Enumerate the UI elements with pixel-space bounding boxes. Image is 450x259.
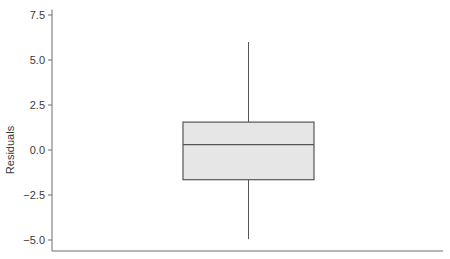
iqr-box [183, 122, 314, 180]
y-tick-label: −5.0 [23, 234, 45, 246]
y-tick-label: 0.0 [30, 144, 45, 156]
y-tick-label: −2.5 [23, 189, 45, 201]
y-axis: 7.55.02.50.0−2.5−5.0 [23, 9, 52, 251]
y-tick-label: 2.5 [30, 99, 45, 111]
box-group [183, 42, 314, 239]
y-tick-label: 7.5 [30, 9, 45, 21]
box-plot-chart: 7.55.02.50.0−2.5−5.0 Residuals [0, 0, 450, 259]
y-axis-label: Residuals [4, 125, 16, 174]
y-tick-label: 5.0 [30, 54, 45, 66]
